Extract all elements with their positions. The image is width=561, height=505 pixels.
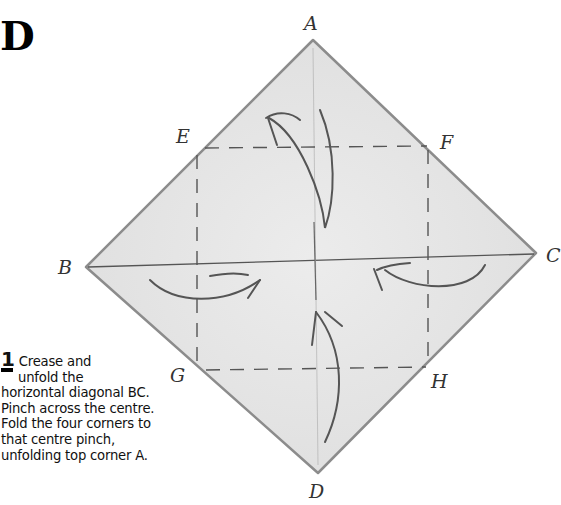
point-label-g: G (170, 364, 185, 386)
step-caption: 1Crease and unfold the horizontal diagon… (1, 351, 171, 463)
point-label-h: H (430, 370, 448, 392)
point-label-b: B (57, 256, 72, 278)
point-label-d: D (308, 480, 324, 502)
point-label-a: A (302, 12, 318, 34)
point-label-e: E (175, 125, 190, 147)
step-text-line1: Crease and (19, 354, 92, 369)
point-label-f: F (439, 131, 454, 153)
step-text-body: horizontal diagonal BC. Pinch across the… (1, 385, 154, 462)
step-text-line2: unfold the (18, 370, 83, 385)
point-label-c: C (546, 244, 561, 266)
step-number: 1 (1, 351, 15, 367)
